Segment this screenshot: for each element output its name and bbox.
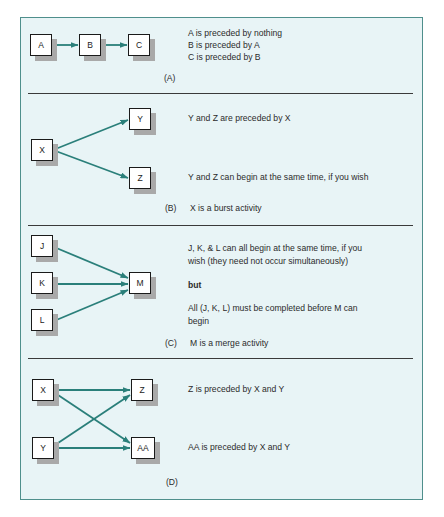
node-x-d: X [32,379,54,401]
node-k: K [31,272,53,294]
section-a-text-3: C is preceded by B [188,51,261,63]
node-y-d: Y [32,437,54,459]
node-b: B [79,34,101,56]
node-a: A [30,34,52,56]
section-d-text-1: Z is preceded by X and Y [188,383,284,395]
section-divider-2 [28,225,413,226]
section-c-text-2b: begin [188,315,209,327]
section-a-label: (A) [164,72,175,84]
section-c-caption: M is a merge activity [190,337,268,349]
node-x: X [31,139,53,161]
section-b-text-1: Y and Z are preceded by X [188,112,291,124]
section-divider-1 [28,93,413,94]
node-aa: AA [131,437,155,459]
section-a-text-1: A is preceded by nothing [188,27,282,39]
section-b-text-2: Y and Z can begin at the same time, if y… [188,171,368,183]
section-divider-3 [28,358,413,359]
node-y: Y [129,108,151,130]
section-d-label: (D) [166,476,178,488]
section-b-caption: X is a burst activity [190,202,262,214]
node-c: C [128,34,150,56]
node-l: L [31,309,53,331]
section-a-text-2: B is preceded by A [188,39,260,51]
section-d-text-2: AA is preceded by X and Y [188,441,290,453]
section-c-text-1b: wish (they need not occur simultaneously… [188,255,348,267]
section-c-but: but [188,279,201,291]
section-c-text-2a: All (J, K, L) must be completed before M… [188,302,358,314]
node-z-d: Z [131,379,153,401]
node-z: Z [129,167,151,189]
section-c-label: (C) [165,337,177,349]
node-j: J [31,235,53,257]
section-b-label: (B) [165,202,176,214]
node-m: M [129,272,151,294]
section-c-text-1a: J, K, & L can all begin at the same time… [188,242,362,254]
